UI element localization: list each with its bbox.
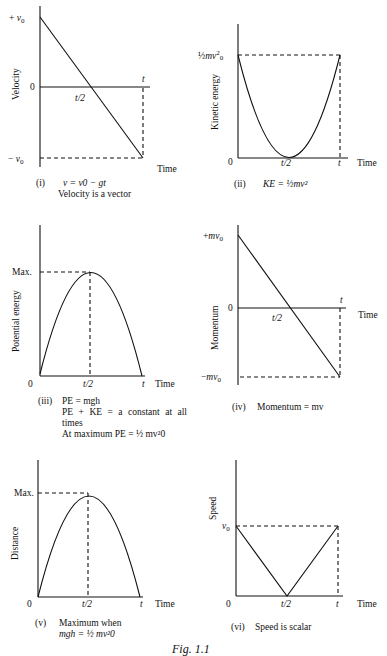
ytick-minus-mv0: −mv0 <box>201 372 221 384</box>
xtick-t: t <box>340 295 343 305</box>
ylabel-kinetic-energy: Kinetic energy <box>210 74 220 130</box>
caption-line: mgh = ½ mv²0 <box>59 629 122 640</box>
xlabel-time: Time <box>358 310 378 320</box>
panel-v-graph <box>38 460 143 597</box>
xtick-half-t: t/2 <box>272 313 282 323</box>
xtick-half-t: t/2 <box>83 379 93 389</box>
xtick-t: t <box>140 599 143 609</box>
caption-vi: (vi) Speed is scalar <box>231 622 245 633</box>
caption-i: (i) v = v0 − gt Velocity is a vector <box>36 178 45 189</box>
ytick-zero: 0 <box>30 82 35 92</box>
caption-iii: (iii) PE = mgh PE + KE = a constant at a… <box>38 396 188 407</box>
caption-number: (vi) <box>231 622 245 632</box>
caption-line: times <box>62 418 187 429</box>
xtick-t: t <box>338 158 341 168</box>
xlabel-time: Time <box>155 379 175 389</box>
panel-ii-graph <box>238 24 348 158</box>
ytick-ke-max: ½mv20 <box>198 49 224 62</box>
caption-number: (i) <box>36 178 45 188</box>
ytick-v0: v0 <box>222 521 230 533</box>
xtick-half-t: t/2 <box>281 599 291 609</box>
caption-line: Maximum when <box>59 618 122 629</box>
ytick-plus-v0: + v0 <box>9 13 25 25</box>
caption-iv: (iv) Momentum = mv <box>232 402 246 413</box>
panel-vi-graph <box>236 460 343 596</box>
caption-line: PE = mgh <box>62 396 187 407</box>
caption-number: (iii) <box>38 396 52 406</box>
ylabel-speed: Speed <box>208 497 218 520</box>
ytick-zero: 0 <box>28 379 33 389</box>
caption-line: At maximum PE = ½ mv²0 <box>62 429 187 440</box>
ytick-plus-mv0: +mv0 <box>203 231 223 243</box>
figure-caption: Fig. 1.1 <box>172 642 210 656</box>
xtick-half-t: t/2 <box>75 93 85 103</box>
xtick-half-t: t/2 <box>82 599 92 609</box>
caption-line: Speed is scalar <box>255 622 311 633</box>
caption-number: (ii) <box>234 179 246 189</box>
ylabel-distance: Distance <box>10 527 20 560</box>
ylabel-momentum: Momentum <box>210 305 220 350</box>
figure-canvas: + v0 0 − v0 t/2 t Time Velocity ½mv20 0 … <box>0 0 387 656</box>
ytick-minus-v0: − v0 <box>8 154 24 166</box>
xlabel-time: Time <box>157 164 177 174</box>
caption-line: v = v0 − gt <box>63 178 106 189</box>
ytick-zero: 0 <box>226 599 231 609</box>
xtick-t: t <box>142 74 145 84</box>
ylabel-velocity: Velocity <box>11 68 21 100</box>
xtick-t: t <box>336 599 339 609</box>
xtick-half-t: t/2 <box>281 158 291 168</box>
caption-number: (iv) <box>232 402 246 412</box>
xlabel-time: Time <box>155 599 175 609</box>
caption-ii: (ii) KE = ½mv² <box>234 179 246 190</box>
xtick-t: t <box>142 379 145 389</box>
ylabel-potential-energy: Potential energy <box>11 290 21 352</box>
ytick-max: Max. <box>14 488 34 498</box>
panel-iii-graph <box>40 225 145 376</box>
xlabel-time: Time <box>357 158 377 168</box>
ytick-zero: 0 <box>27 599 32 609</box>
caption-line: KE = ½mv² <box>263 179 307 190</box>
ytick-zero: 0 <box>228 157 233 167</box>
caption-v: (v) Maximum when mgh = ½ mv²0 <box>35 618 46 629</box>
caption-line: Velocity is a vector <box>58 189 131 200</box>
ytick-max: Max. <box>12 267 32 277</box>
panel-iv-graph <box>238 225 346 385</box>
ytick-zero: 0 <box>228 303 233 313</box>
caption-number: (v) <box>35 618 46 628</box>
panel-i-graph <box>40 6 150 167</box>
xlabel-time: Time <box>357 599 377 609</box>
caption-line: PE + KE = a constant at all <box>62 407 187 418</box>
caption-line: Momentum = mv <box>257 402 324 413</box>
